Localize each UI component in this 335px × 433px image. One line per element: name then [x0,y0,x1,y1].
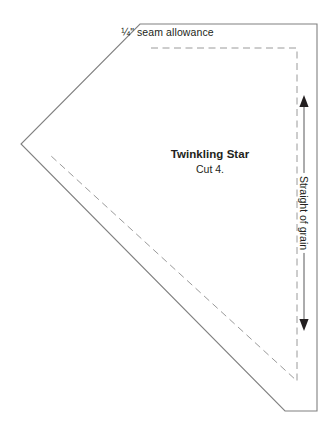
pattern-template-drawing [0,0,335,433]
cut-line-path [21,24,317,411]
